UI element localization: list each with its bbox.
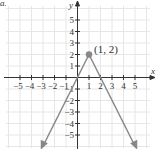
svg-text:2: 2: [70, 50, 75, 60]
svg-text:−3: −3: [36, 81, 46, 91]
x-axis-arrow-icon: [150, 76, 155, 80]
svg-text:3: 3: [70, 38, 75, 48]
svg-text:1: 1: [70, 61, 75, 71]
svg-text:−5: −5: [13, 81, 23, 91]
svg-text:−4: −4: [64, 119, 74, 129]
svg-text:4: 4: [121, 81, 126, 91]
svg-text:−4: −4: [25, 81, 35, 91]
svg-text:−2: −2: [48, 81, 58, 91]
vertex-label: (1, 2): [94, 43, 118, 56]
corner-mark: a.: [0, 0, 7, 8]
svg-text:2: 2: [98, 81, 103, 91]
svg-text:−3: −3: [64, 107, 74, 117]
svg-text:3: 3: [110, 81, 115, 91]
x-axis-label: x: [150, 66, 155, 76]
svg-text:−5: −5: [64, 130, 74, 140]
y-axis-arrow-icon: [76, 1, 80, 6]
y-axis-label: y: [68, 0, 73, 10]
graph: a. y x −5 −4 −3 −2 −1 1 2 3 4 5 5 4 3 2 …: [0, 0, 156, 149]
svg-text:5: 5: [133, 81, 138, 91]
svg-text:4: 4: [70, 27, 75, 37]
vertex-point: [87, 52, 92, 57]
svg-text:5: 5: [70, 15, 75, 25]
svg-text:1: 1: [87, 81, 92, 91]
